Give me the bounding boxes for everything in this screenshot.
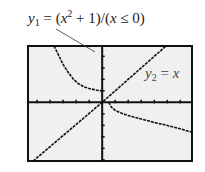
graphing-calculator-plot	[0, 0, 205, 172]
y2-equation-label: y2 = x	[145, 65, 179, 83]
y2-x: x	[173, 65, 180, 81]
y2-var: y	[145, 65, 152, 81]
y2-eq: =	[157, 65, 173, 81]
